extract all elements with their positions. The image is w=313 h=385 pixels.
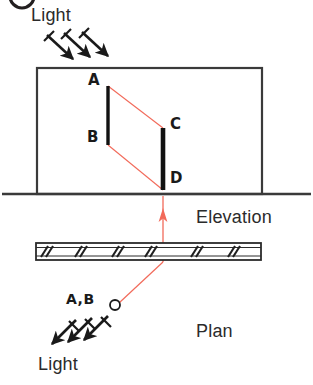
elevation-wall-box <box>37 68 262 194</box>
shadow-projection-figure: Light A B C D Elevation A,B Plan Light <box>0 0 313 385</box>
point-label-a: A <box>88 73 100 88</box>
point-label-ab-plan: A,B <box>66 292 95 306</box>
plan-point-ab-marker <box>110 300 120 310</box>
light-arrows-bottom <box>52 316 108 344</box>
plan-slab <box>36 243 261 260</box>
plan-view-label: Plan <box>196 322 233 340</box>
light-arrows-top <box>47 32 108 59</box>
diagram-canvas <box>0 0 313 385</box>
light-label-top: Light <box>31 6 71 24</box>
ray-a-to-c <box>108 86 163 128</box>
point-label-d: D <box>170 171 183 186</box>
point-label-b: B <box>87 130 99 145</box>
elevation-view-label: Elevation <box>196 208 272 226</box>
light-label-bottom: Light <box>38 355 78 373</box>
plan-ray-to-slab <box>119 262 163 303</box>
ray-b-to-d <box>108 145 163 190</box>
point-label-c: C <box>170 117 182 132</box>
